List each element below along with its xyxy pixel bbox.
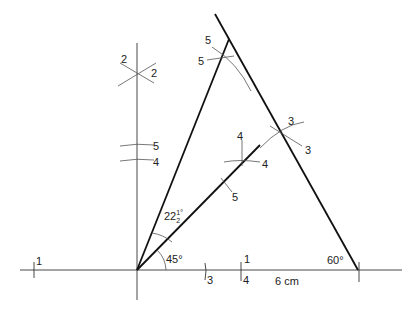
label-step-3a: 3 (288, 115, 294, 127)
label-step-4-base: 4 (243, 274, 249, 286)
label-step-4b: 4 (262, 158, 268, 170)
label-step-5-vert: 5 (153, 140, 159, 152)
label-step-3-base: 3 (207, 274, 213, 286)
label-angle-60: 60° (327, 254, 344, 266)
construction-diagram: 1 1 2 2 3 3 3 4 4 4 4 5 5 5 5 45° 2212° … (0, 0, 415, 313)
label-step-5-bisector: 5 (232, 191, 238, 203)
label-step-4a: 4 (237, 130, 243, 142)
label-step-2b: 2 (151, 67, 157, 79)
angle-arc-45 (157, 250, 166, 270)
label-step-4-vert: 4 (153, 156, 159, 168)
arc-3b (270, 126, 302, 146)
tick-3-base (205, 263, 206, 280)
label-step-2a: 2 (121, 53, 127, 65)
label-step-1-right: 1 (244, 253, 250, 265)
label-step-3b: 3 (305, 144, 311, 156)
label-step-1-left: 1 (36, 255, 42, 267)
label-angle-22: 2212° (164, 208, 183, 224)
label-step-5a: 5 (205, 34, 211, 46)
label-step-5b: 5 (198, 55, 204, 67)
label-base-length: 6 cm (275, 275, 299, 287)
triangle-right-side (215, 14, 358, 270)
label-angle-45: 45° (166, 253, 183, 265)
